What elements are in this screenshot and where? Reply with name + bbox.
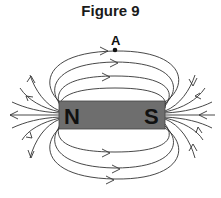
point-a-label: A [111, 33, 121, 48]
point-a-marker [113, 48, 118, 53]
north-pole-label: N [64, 104, 80, 129]
magnetic-field-diagram: N S A [0, 0, 221, 198]
south-pole-label: S [144, 104, 159, 129]
